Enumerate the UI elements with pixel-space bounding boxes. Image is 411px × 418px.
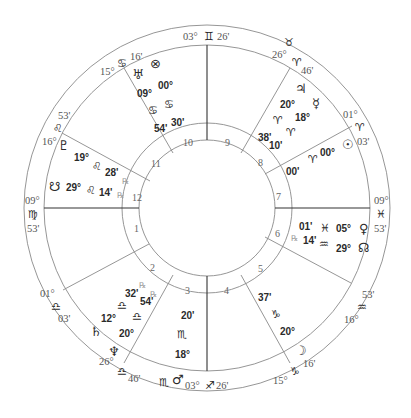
moon-min: 37' bbox=[258, 292, 272, 303]
cusp-4-deg: 03° bbox=[185, 380, 200, 391]
cusp-12-deg: 16° bbox=[42, 136, 57, 147]
gemini-icon: ♊ bbox=[204, 30, 214, 43]
natal-chart-wheel: 1 2 3 4 5 6 7 8 9 10 11 12 03° ♊ 26' ♉ 2… bbox=[0, 0, 411, 418]
sagittarius-icon: ♐ bbox=[205, 379, 215, 392]
house-number-6: 6 bbox=[275, 228, 280, 239]
mercury-min: 10' bbox=[269, 140, 283, 151]
pluto-deg: 19° bbox=[74, 152, 89, 163]
sun-deg: 00° bbox=[320, 147, 335, 158]
house-number-5: 5 bbox=[258, 263, 263, 274]
cusp-5-line bbox=[241, 275, 290, 363]
cusp-5-deg: 15° bbox=[273, 375, 288, 386]
sun-icon: ☉ bbox=[342, 137, 354, 152]
pisces-icon: ♓ bbox=[376, 208, 386, 221]
jupiter-deg: 20° bbox=[280, 99, 295, 110]
capricorn-icon: ♑ bbox=[271, 308, 281, 321]
mercury-deg: 18° bbox=[295, 112, 310, 123]
cusp-7-min: 53' bbox=[374, 223, 387, 234]
cusp-9-deg: 26° bbox=[272, 49, 287, 60]
jupiter-icon: ♃ bbox=[295, 81, 307, 96]
house-number-7: 7 bbox=[276, 191, 281, 202]
cancer-icon: ♋ bbox=[148, 104, 158, 117]
uranus-deg: 09° bbox=[137, 88, 152, 99]
cancer-icon: ♋ bbox=[164, 98, 174, 111]
planet-part-of-fortune[interactable]: ⊗ 00° ♋ 30' bbox=[150, 56, 185, 128]
aries-icon: ♈ bbox=[286, 126, 296, 139]
aries-icon: ♈ bbox=[273, 114, 283, 127]
virgo-icon: ♍ bbox=[28, 208, 38, 221]
venus-icon: ♀ bbox=[359, 221, 369, 236]
planet-venus[interactable]: ♀ 05° ♓ 01' bbox=[299, 221, 369, 236]
cusp-8-deg: 01° bbox=[343, 109, 358, 120]
planet-uranus[interactable]: ♅ 09° ♋ 54' bbox=[132, 67, 168, 134]
cusp-1-deg: 09° bbox=[25, 195, 40, 206]
south-node-icon: ☋ bbox=[49, 179, 61, 194]
cusp-6-deg: 16° bbox=[344, 314, 359, 325]
south-node-min: 14' bbox=[99, 187, 113, 198]
cusp-6-min: 53' bbox=[362, 289, 375, 300]
planet-south-node[interactable]: ☋ 29° ♌ 14' ℞ bbox=[49, 179, 124, 200]
cusp-9-min: 46' bbox=[301, 65, 314, 76]
cusp-12-min: 53' bbox=[58, 110, 71, 121]
cusp-11-deg: 15° bbox=[100, 66, 115, 77]
cusp-5-min: 16' bbox=[303, 358, 316, 369]
north-node-min: 14' bbox=[303, 235, 317, 246]
cusp-2-min: 03' bbox=[58, 313, 71, 324]
house-number-2: 2 bbox=[150, 262, 155, 273]
planet-moon[interactable]: ☽ 20° ♑ 37' bbox=[258, 292, 307, 358]
house-number-11: 11 bbox=[151, 158, 161, 169]
planet-north-node[interactable]: ☊ 29° ♒ 14' ℞ bbox=[291, 234, 370, 255]
saturn-retrograde-icon: ℞ bbox=[139, 281, 146, 290]
leo-icon: ♌ bbox=[86, 184, 96, 197]
house-number-1: 1 bbox=[134, 223, 139, 234]
part-of-fortune-icon: ⊗ bbox=[150, 56, 161, 71]
scorpio-icon: ♏ bbox=[177, 328, 187, 341]
house-number-10: 10 bbox=[183, 137, 193, 148]
south-node-deg: 29° bbox=[66, 182, 81, 193]
capricorn-icon: ♑ bbox=[290, 365, 300, 378]
scorpio-icon: ♏ bbox=[159, 376, 169, 389]
venus-deg: 05° bbox=[336, 223, 351, 234]
house-numbers: 1 2 3 4 5 6 7 8 9 10 11 12 bbox=[132, 137, 281, 296]
leo-icon: ♌ bbox=[92, 160, 102, 173]
aries-icon: ♈ bbox=[355, 121, 365, 134]
cusp-1-min: 53' bbox=[27, 223, 40, 234]
pluto-min: 28' bbox=[105, 167, 119, 178]
house-number-12: 12 bbox=[132, 192, 142, 203]
planet-pluto[interactable]: ♇ 19° ♌ 28' ℞ bbox=[58, 138, 129, 186]
planet-mars[interactable]: ♂ 18° ♏ 20' bbox=[172, 310, 195, 387]
neptune-deg: 20° bbox=[119, 328, 134, 339]
moon-icon: ☽ bbox=[295, 343, 307, 358]
uranus-icon: ♅ bbox=[132, 67, 144, 82]
mars-min: 20' bbox=[181, 310, 195, 321]
mars-deg: 18° bbox=[175, 349, 190, 360]
cusp-2-line bbox=[63, 244, 149, 290]
fortune-deg: 00° bbox=[158, 80, 173, 91]
libra-icon: ♎ bbox=[51, 300, 61, 313]
aquarius-icon: ♒ bbox=[319, 238, 329, 251]
moon-deg: 20° bbox=[280, 326, 295, 337]
house-ring-outer bbox=[122, 123, 292, 293]
taurus-icon: ♉ bbox=[284, 36, 294, 49]
cancer-icon: ♋ bbox=[117, 57, 127, 70]
north-node-icon: ☊ bbox=[358, 240, 370, 255]
cusp-11-min: 16' bbox=[130, 51, 143, 62]
mercury-icon: ☿ bbox=[312, 96, 320, 111]
cusp-4-min: 26' bbox=[216, 380, 229, 391]
cusp-10-deg: 03° bbox=[183, 31, 198, 42]
cusp-2-deg: 01° bbox=[40, 288, 55, 299]
saturn-min: 32' bbox=[125, 288, 139, 299]
pisces-icon: ♓ bbox=[320, 222, 330, 235]
cusp-7-deg: 09° bbox=[374, 195, 389, 206]
uranus-min: 54' bbox=[154, 123, 168, 134]
north-node-retrograde-icon: ℞ bbox=[291, 234, 298, 243]
libra-icon: ♎ bbox=[117, 365, 127, 378]
house-number-9: 9 bbox=[225, 137, 230, 148]
venus-min: 01' bbox=[299, 221, 313, 232]
south-node-retrograde-icon: ℞ bbox=[117, 191, 124, 200]
house-number-3: 3 bbox=[185, 285, 190, 296]
saturn-icon: ♄ bbox=[90, 324, 102, 339]
cusp-8-min: 03' bbox=[357, 136, 370, 147]
pluto-icon: ♇ bbox=[58, 138, 70, 153]
cusp-10-min: 26' bbox=[217, 31, 230, 42]
